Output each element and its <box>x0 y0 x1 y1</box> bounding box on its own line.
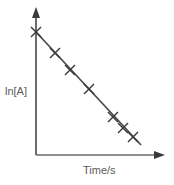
data-point-marker <box>65 65 75 75</box>
data-point-marker <box>108 112 118 122</box>
x-axis-arrow-icon <box>154 151 165 159</box>
first-order-kinetics-chart: ln[A] Time/s <box>0 0 174 185</box>
y-axis-label: ln[A] <box>5 85 27 97</box>
data-point-marker <box>128 132 138 142</box>
y-axis-arrow-icon <box>32 7 40 18</box>
x-axis-label: Time/s <box>83 164 116 176</box>
data-point-marker <box>84 84 94 94</box>
data-point-marker <box>50 48 60 58</box>
